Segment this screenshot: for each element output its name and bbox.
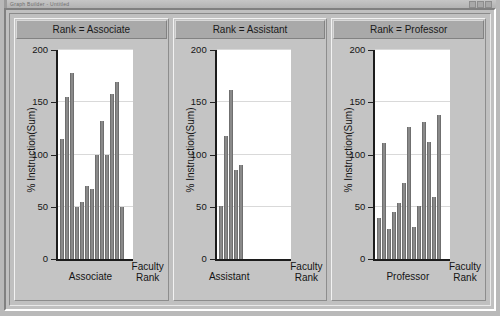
y-axis-tick-label: 150 xyxy=(175,97,207,107)
bar[interactable] xyxy=(75,207,79,259)
bar[interactable] xyxy=(229,90,233,259)
y-axis-tick-label: 200 xyxy=(175,45,207,55)
bar[interactable] xyxy=(427,142,431,259)
facet-panel-title: Rank = Professor xyxy=(370,25,448,35)
y-axis-tick-label: 0 xyxy=(333,254,365,264)
maximize-button[interactable] xyxy=(477,1,484,8)
facet-panel-header: Rank = Professor xyxy=(333,20,484,39)
y-axis-tick-mark xyxy=(210,207,215,208)
bar[interactable] xyxy=(432,197,436,259)
plot-body: % Instruction(Sum)050100150200ProfessorF… xyxy=(333,40,484,299)
x-axis-title: Faculty Rank xyxy=(130,261,166,283)
y-axis-tick-label: 100 xyxy=(175,150,207,160)
close-button[interactable] xyxy=(485,1,492,8)
facet-panel-row: Rank = Associate% Instruction(Sum)050100… xyxy=(14,18,486,301)
bar[interactable] xyxy=(110,94,114,259)
x-axis-category-label: Assistant xyxy=(189,271,269,282)
bar[interactable] xyxy=(100,121,104,259)
facet-panel-professor[interactable]: Rank = Professor% Instruction(Sum)050100… xyxy=(331,18,486,301)
bar[interactable] xyxy=(60,139,64,259)
window-title: Graph Builder - Untitled xyxy=(10,1,69,7)
bar[interactable] xyxy=(387,229,391,259)
facet-panel-assistant[interactable]: Rank = Assistant% Instruction(Sum)050100… xyxy=(173,18,328,301)
gridline xyxy=(217,49,292,50)
gridline xyxy=(58,49,133,50)
gridline xyxy=(375,101,450,102)
y-axis-tick-mark xyxy=(51,259,56,260)
bar[interactable] xyxy=(120,207,124,259)
y-axis-tick-label: 150 xyxy=(16,97,48,107)
bar[interactable] xyxy=(95,155,99,260)
bar[interactable] xyxy=(402,183,406,259)
bar[interactable] xyxy=(422,122,426,259)
bar[interactable] xyxy=(397,203,401,259)
bar[interactable] xyxy=(407,127,411,259)
bar[interactable] xyxy=(115,82,119,259)
bar[interactable] xyxy=(417,206,421,259)
y-axis-tick-mark xyxy=(210,259,215,260)
y-axis-tick-mark xyxy=(368,155,373,156)
bar[interactable] xyxy=(80,202,84,259)
x-axis-title: Faculty Rank xyxy=(288,261,324,283)
y-axis-tick-label: 50 xyxy=(16,202,48,212)
plot-body: % Instruction(Sum)050100150200AssociateF… xyxy=(16,40,167,299)
y-axis-tick-mark xyxy=(51,50,56,51)
x-axis-title: Faculty Rank xyxy=(447,261,483,283)
bar[interactable] xyxy=(437,115,441,259)
facet-panel-header: Rank = Associate xyxy=(16,20,167,39)
y-axis-tick-mark xyxy=(51,102,56,103)
bar[interactable] xyxy=(219,206,223,259)
y-axis-tick-label: 100 xyxy=(333,150,365,160)
y-axis-tick-mark xyxy=(210,50,215,51)
y-axis-tick-mark xyxy=(368,50,373,51)
bar[interactable] xyxy=(70,73,74,259)
facet-panel-associate[interactable]: Rank = Associate% Instruction(Sum)050100… xyxy=(14,18,169,301)
bar[interactable] xyxy=(105,155,109,260)
y-axis-tick-mark xyxy=(368,207,373,208)
plot-area[interactable] xyxy=(215,50,292,261)
bar[interactable] xyxy=(234,170,238,259)
facet-panel-title: Rank = Assistant xyxy=(213,25,288,35)
y-axis-tick-label: 150 xyxy=(333,97,365,107)
plot-area[interactable] xyxy=(373,50,450,261)
bar[interactable] xyxy=(377,218,381,259)
plot-body: % Instruction(Sum)050100150200AssistantF… xyxy=(175,40,326,299)
bar[interactable] xyxy=(224,136,228,259)
facet-panel-title: Rank = Associate xyxy=(53,25,131,35)
bar[interactable] xyxy=(392,212,396,259)
gridline xyxy=(375,49,450,50)
chart-frame-inner: Rank = Associate% Instruction(Sum)050100… xyxy=(9,13,491,306)
y-axis-tick-label: 200 xyxy=(333,45,365,55)
x-axis-category-label: Associate xyxy=(51,271,131,282)
minimize-button[interactable] xyxy=(469,1,476,8)
bar[interactable] xyxy=(412,227,416,259)
y-axis-tick-mark xyxy=(210,102,215,103)
y-axis-tick-label: 100 xyxy=(16,150,48,160)
x-axis-category-label: Professor xyxy=(368,271,448,282)
y-axis-tick-mark xyxy=(368,259,373,260)
bar[interactable] xyxy=(85,186,89,259)
bar[interactable] xyxy=(65,97,69,259)
y-axis-tick-label: 50 xyxy=(333,202,365,212)
bar[interactable] xyxy=(90,189,94,259)
y-axis-tick-label: 50 xyxy=(175,202,207,212)
facet-panel-header: Rank = Assistant xyxy=(175,20,326,39)
y-axis-tick-label: 200 xyxy=(16,45,48,55)
bar[interactable] xyxy=(239,165,243,259)
y-axis-tick-mark xyxy=(210,155,215,156)
screenshot-root: Graph Builder - Untitled Rank = Associat… xyxy=(0,0,500,316)
chart-frame-outer: Rank = Associate% Instruction(Sum)050100… xyxy=(4,8,496,311)
y-axis-tick-label: 0 xyxy=(16,254,48,264)
y-axis-tick-mark xyxy=(368,102,373,103)
y-axis-tick-mark xyxy=(51,207,56,208)
bar[interactable] xyxy=(382,143,386,259)
y-axis-tick-label: 0 xyxy=(175,254,207,264)
plot-area[interactable] xyxy=(56,50,133,261)
y-axis-tick-mark xyxy=(51,155,56,156)
